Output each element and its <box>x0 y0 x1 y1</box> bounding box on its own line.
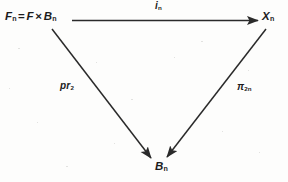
arrow-label-top: in <box>155 1 162 11</box>
vertex-left-product-right: B <box>44 10 53 22</box>
vertex-label-left: Fn=F×Bn <box>5 11 57 23</box>
arrow-label-top-sub: n <box>158 4 162 11</box>
commutative-diagram: X_n --> B_n --> B_n --> Fn=F×Bn Xn Bn in… <box>0 0 288 182</box>
arrow-label-left-base: pr <box>60 80 70 91</box>
vertex-label-bottom: Bn <box>155 161 168 173</box>
vertex-bottom-sub: n <box>164 165 168 173</box>
arrow-label-left-sub: 2 <box>70 84 73 91</box>
vertex-left-product-right-sub: n <box>52 15 56 23</box>
vertex-bottom-base: B <box>155 160 164 172</box>
vertex-left-sub: n <box>12 15 16 23</box>
arrow-label-right-sub: 2n <box>244 85 251 92</box>
arrow-left-diagonal-pr2 <box>52 29 151 158</box>
vertex-label-right: Xn <box>262 11 274 23</box>
vertex-left-product-left: F <box>27 10 34 22</box>
equals-sign: = <box>17 10 27 22</box>
times-sign: × <box>34 10 44 22</box>
arrow-right-diagonal-pi2n <box>167 29 266 157</box>
vertex-right-sub: n <box>270 15 274 23</box>
arrow-label-right-diagonal: π2n <box>237 82 252 92</box>
vertex-right-base: X <box>262 10 270 22</box>
arrow-label-left-diagonal: pr2 <box>60 81 74 91</box>
